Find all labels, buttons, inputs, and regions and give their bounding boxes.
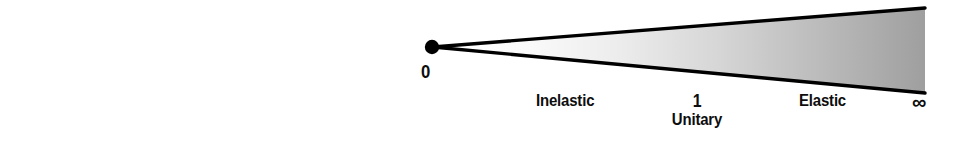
elasticity-wedge-graphic: [0, 0, 961, 144]
elasticity-range-figure: 0 Inelastic 1 Unitary Elastic ∞: [0, 0, 961, 144]
label-zero: 0: [421, 62, 430, 81]
label-inelastic: Inelastic: [536, 92, 594, 109]
origin-dot-icon: [425, 40, 439, 54]
wedge-shape: [425, 8, 925, 93]
label-elastic: Elastic: [799, 92, 846, 109]
label-unitary-value: 1: [693, 92, 702, 110]
wedge-fill: [433, 8, 925, 93]
label-infinity: ∞: [912, 92, 926, 112]
label-unitary: Unitary: [672, 111, 722, 128]
